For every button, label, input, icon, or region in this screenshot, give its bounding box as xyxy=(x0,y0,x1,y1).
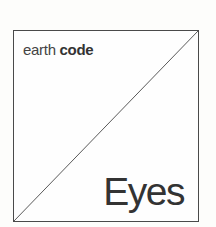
series-label: earth code xyxy=(23,41,93,58)
cover-title: Eyes xyxy=(103,172,184,211)
book-cover: earth code Eyes xyxy=(13,30,199,222)
series-name: code xyxy=(60,41,94,58)
series-prefix: earth xyxy=(23,41,56,58)
